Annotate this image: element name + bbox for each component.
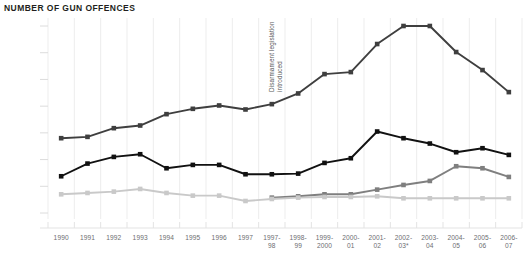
data-point-marker	[454, 150, 459, 155]
chart-annotation: Disarmament legislation introduced	[268, 20, 283, 92]
data-point-marker	[138, 152, 143, 157]
data-point-marker	[217, 163, 222, 168]
data-point-marker	[480, 146, 485, 151]
data-point-marker	[85, 161, 90, 166]
data-point-marker	[428, 24, 433, 29]
data-point-marker	[217, 103, 222, 108]
data-point-marker	[454, 196, 459, 201]
data-point-marker	[375, 42, 380, 47]
data-point-marker	[138, 187, 143, 192]
data-point-marker	[85, 191, 90, 196]
data-point-marker	[401, 196, 406, 201]
data-point-marker	[322, 195, 327, 200]
data-point-marker	[270, 102, 275, 107]
data-point-marker	[191, 163, 196, 168]
data-point-marker	[243, 107, 248, 112]
data-point-marker	[164, 112, 169, 117]
data-point-marker	[85, 135, 90, 140]
data-point-marker	[112, 189, 117, 194]
data-point-marker	[401, 136, 406, 141]
data-point-marker	[428, 196, 433, 201]
data-point-marker	[428, 141, 433, 146]
data-point-marker	[138, 123, 143, 128]
data-point-marker	[375, 129, 380, 134]
data-point-marker	[454, 164, 459, 169]
data-point-marker	[270, 197, 275, 202]
data-point-marker	[507, 153, 512, 158]
data-point-marker	[296, 195, 301, 200]
data-point-marker	[480, 196, 485, 201]
data-point-marker	[270, 172, 275, 177]
data-point-marker	[164, 166, 169, 171]
data-point-marker	[296, 171, 301, 176]
data-point-marker	[322, 161, 327, 166]
data-point-marker	[401, 24, 406, 29]
data-point-marker	[112, 126, 117, 131]
plot-area	[0, 0, 528, 259]
data-point-marker	[112, 155, 117, 160]
data-point-marker	[217, 193, 222, 198]
data-point-marker	[243, 199, 248, 204]
data-point-marker	[480, 68, 485, 73]
data-point-marker	[507, 175, 512, 180]
data-point-marker	[349, 156, 354, 161]
data-point-marker	[428, 179, 433, 184]
data-point-marker	[59, 136, 64, 141]
data-point-marker	[59, 192, 64, 197]
data-point-marker	[349, 195, 354, 200]
data-point-marker	[322, 72, 327, 77]
data-point-marker	[164, 191, 169, 196]
data-point-marker	[507, 196, 512, 201]
data-point-marker	[349, 70, 354, 75]
data-point-marker	[296, 91, 301, 96]
data-point-marker	[401, 183, 406, 188]
gun-offences-chart: NUMBER OF GUN OFFENCES 02,0004,0006,0008…	[0, 0, 528, 259]
data-point-marker	[454, 50, 459, 55]
data-point-marker	[507, 90, 512, 95]
data-point-marker	[480, 166, 485, 171]
data-point-marker	[243, 172, 248, 177]
data-point-marker	[191, 193, 196, 198]
data-point-marker	[191, 107, 196, 112]
data-point-marker	[59, 174, 64, 179]
data-point-marker	[375, 194, 380, 199]
data-point-marker	[375, 187, 380, 192]
